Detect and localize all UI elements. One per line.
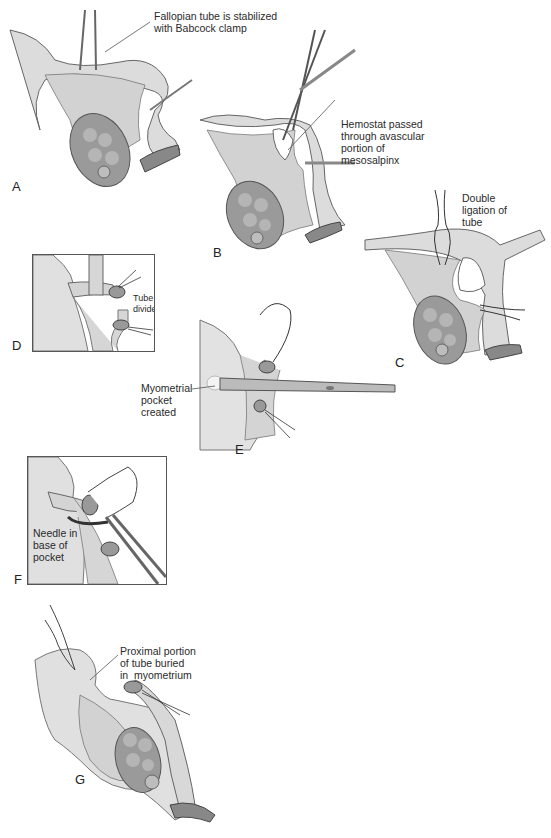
panel-f-illustration — [28, 457, 166, 584]
panel-g-illustration — [30, 600, 270, 838]
panel-b-label: Hemostat passed through avascular portio… — [341, 118, 424, 166]
panel-f-label: Needle in base of pocket — [33, 527, 77, 563]
panel-a-letter: A — [12, 179, 21, 194]
panel-e-illustration — [195, 300, 395, 460]
panel-d-box: Tube divided — [32, 254, 155, 352]
panel-e-letter: E — [235, 442, 244, 457]
panel-b: B — [195, 30, 355, 270]
panel-d-letter: D — [12, 338, 21, 353]
panel-f-letter: F — [14, 572, 22, 587]
panel-g-letter: G — [75, 772, 85, 787]
panel-c-letter: C — [395, 355, 404, 370]
panel-g-label: Proximal portion of tube buried in myome… — [120, 645, 196, 681]
panel-d-label: Tube divided — [133, 293, 155, 315]
panel-g: G — [30, 600, 270, 838]
panel-e: E — [195, 300, 395, 460]
panel-a: Fallopian tube is stabilized with Babcoc… — [0, 0, 200, 200]
panel-e-label: Myometrial pocket created — [141, 382, 192, 418]
panel-b-letter: B — [213, 245, 222, 260]
panel-c-label: Double ligation of tube — [462, 192, 507, 228]
panel-f-box: Needle in base of pocket — [27, 456, 167, 585]
panel-b-illustration — [195, 30, 355, 270]
